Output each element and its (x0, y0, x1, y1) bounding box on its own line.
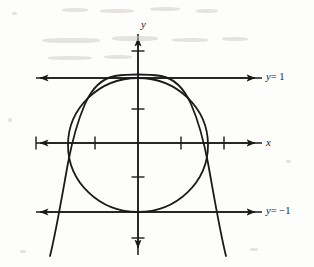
x-axis (36, 137, 262, 150)
scan-speck (48, 56, 92, 60)
scan-speck (286, 160, 291, 163)
label-y-equals-1: y= 1 (266, 71, 284, 82)
figure-container: y x y= 1 y= −1 (0, 0, 314, 267)
y-axis (132, 34, 145, 255)
scan-speck (104, 55, 132, 59)
scan-speck (8, 118, 12, 122)
x-axis-label: x (266, 136, 271, 148)
scan-speck (172, 38, 208, 42)
scan-speck (196, 9, 218, 13)
y-axis-label: y (141, 18, 146, 30)
scan-speck (222, 37, 248, 41)
scan-speck (150, 7, 180, 11)
label-y-equals-1-rest: = 1 (271, 71, 285, 82)
scan-speck (250, 248, 258, 251)
scan-speck (12, 12, 17, 15)
scan-speck (62, 8, 88, 12)
scan-speck (42, 38, 100, 43)
scan-speck (112, 36, 158, 41)
label-y-equals-minus-1-rest: = −1 (271, 205, 291, 216)
scan-speck (100, 9, 134, 13)
scan-speck (20, 250, 26, 253)
label-y-equals-minus-1: y= −1 (266, 205, 290, 216)
